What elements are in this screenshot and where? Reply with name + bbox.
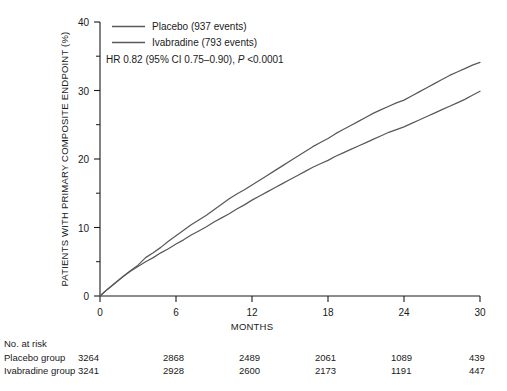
x-tick-label: 24 [398, 307, 410, 318]
risk-cell: 2928 [163, 365, 184, 376]
risk-cell: 2600 [239, 365, 260, 376]
curve-ivabradine [100, 91, 480, 296]
risk-cell: 447 [469, 365, 485, 376]
y-axis-tick-labels: 40 30 20 10 0 [78, 17, 90, 302]
y-axis-major-ticks [94, 22, 100, 296]
y-tick-label: 0 [83, 291, 89, 302]
chart-canvas: 40 30 20 10 0 0 6 12 18 24 30 MONTHS PAT… [0, 0, 507, 391]
x-tick-label: 18 [322, 307, 334, 318]
x-tick-label: 6 [173, 307, 179, 318]
risk-cell: 2173 [315, 365, 336, 376]
risk-row-label: Ivabradine group [4, 365, 75, 376]
risk-cell: 1089 [391, 352, 412, 363]
risk-cell: 1191 [391, 365, 411, 376]
risk-table-row: Ivabradine group 3241 2928 2600 2173 119… [4, 365, 485, 376]
y-tick-label: 40 [78, 17, 90, 28]
legend-label-placebo: Placebo (937 events) [152, 21, 247, 32]
hazard-ratio-annotation: HR 0.82 (95% CI 0.75–0.90), P <0.0001 [106, 54, 284, 65]
hr-text: HR 0.82 (95% CI 0.75–0.90), [106, 54, 238, 65]
x-axis-title: MONTHS [231, 321, 273, 332]
y-tick-label: 30 [78, 86, 90, 97]
risk-cell: 2489 [239, 352, 260, 363]
risk-cell: 2868 [163, 352, 184, 363]
hr-p-value: <0.0001 [244, 54, 284, 65]
risk-row-label: Placebo group [4, 352, 65, 363]
risk-table-title: No. at risk [4, 338, 47, 349]
risk-cell: 3264 [78, 352, 99, 363]
x-tick-label: 0 [97, 307, 103, 318]
risk-table: No. at risk Placebo group 3264 2868 2489… [4, 338, 485, 376]
legend: Placebo (937 events) Ivabradine (793 eve… [112, 21, 257, 48]
y-tick-label: 20 [78, 154, 90, 165]
y-tick-label: 10 [78, 223, 90, 234]
survival-curve-figure: 40 30 20 10 0 0 6 12 18 24 30 MONTHS PAT… [0, 0, 507, 391]
x-axis-tick-labels: 0 6 12 18 24 30 [97, 307, 486, 318]
risk-cell: 3241 [78, 365, 99, 376]
risk-cell: 2061 [315, 352, 336, 363]
x-tick-label: 30 [474, 307, 486, 318]
data-curves [100, 62, 480, 296]
risk-table-row: Placebo group 3264 2868 2489 2061 1089 4… [4, 352, 485, 363]
x-axis-ticks [100, 296, 480, 302]
risk-cell: 439 [469, 352, 485, 363]
x-tick-label: 12 [246, 307, 258, 318]
legend-label-ivabradine: Ivabradine (793 events) [152, 37, 257, 48]
y-axis-title: PATIENTS WITH PRIMARY COMPOSITE ENDPOINT… [59, 32, 70, 287]
